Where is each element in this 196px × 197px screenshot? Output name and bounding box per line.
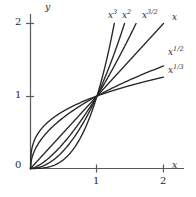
curve-label-x-sqrt-exp: 1/2	[173, 45, 183, 53]
curve-label-x-linear-base: x	[172, 12, 177, 22]
y-tick-label-2: 2	[15, 17, 21, 27]
origin-tick-label: 0	[15, 160, 21, 170]
curve-label-x-sqrt: x1/2	[168, 48, 184, 57]
y-tick-label-1: 1	[15, 90, 21, 100]
curve-label-x-three-halves-exp: 3/2	[147, 8, 157, 16]
plot-canvas	[0, 0, 196, 197]
curve-label-x-linear: x	[172, 13, 177, 22]
x-tick-label-2: 2	[160, 176, 166, 186]
curve-x-3	[31, 24, 115, 169]
curve-label-x-cbrt: x1/3	[168, 66, 184, 75]
x-axis-label: x	[172, 160, 177, 170]
curve-label-x-three-halves: x3/2	[142, 11, 158, 20]
x-tick-label-1: 1	[93, 176, 99, 186]
curve-label-x-cubed-exp: 3	[113, 8, 117, 16]
curve-label-x-squared-exp: 2	[127, 8, 131, 16]
curve-x-1-3-	[31, 77, 164, 168]
curves-group	[31, 24, 164, 169]
curve-x-3-2-	[31, 24, 137, 169]
curve-label-x-squared: x2	[122, 11, 131, 20]
y-axis-label: y	[45, 2, 50, 12]
power-function-plot-figure: y x 0 2 1 1 2 x3 x2 x3/2 x x1/2 x1/3	[0, 0, 196, 197]
curve-label-x-cbrt-exp: 1/3	[173, 63, 183, 71]
curve-label-x-cubed: x3	[108, 11, 117, 20]
